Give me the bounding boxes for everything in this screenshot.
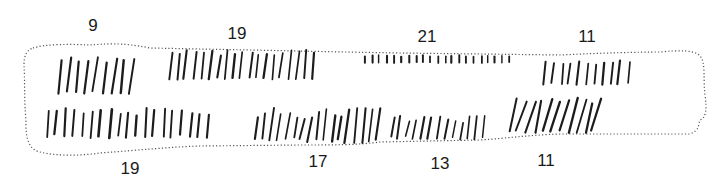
notch-mark xyxy=(256,55,258,78)
notch-mark xyxy=(109,109,112,138)
notch-mark xyxy=(420,117,424,139)
notch-mark xyxy=(54,111,57,134)
notch-mark xyxy=(277,114,281,140)
notch-mark xyxy=(121,60,124,93)
notch-mark xyxy=(76,62,79,92)
bottom-label-4: 11 xyxy=(537,152,555,169)
notch-mark xyxy=(47,111,49,137)
notch-mark xyxy=(264,54,267,78)
notch-mark xyxy=(300,119,305,139)
notch-mark xyxy=(207,115,209,138)
notch-mark xyxy=(202,53,204,79)
notch-mark xyxy=(362,108,365,143)
notch-mark xyxy=(467,116,469,138)
notch-mark xyxy=(82,113,83,136)
top-label-1: 9 xyxy=(88,17,97,34)
notch-mark xyxy=(98,110,100,136)
notch-mark xyxy=(617,61,620,84)
notch-mark xyxy=(323,109,326,140)
notch-mark xyxy=(445,120,449,139)
notch-mark xyxy=(483,116,485,138)
notch-mark xyxy=(64,108,65,136)
notch-mark xyxy=(304,50,306,78)
notch-mark xyxy=(332,116,335,142)
notch-mark xyxy=(296,51,300,79)
notch-mark xyxy=(560,100,570,130)
notch-mark xyxy=(586,64,588,85)
notch-mark xyxy=(190,113,192,136)
notch-mark xyxy=(164,109,165,137)
notch-mark xyxy=(118,114,121,136)
notch-mark xyxy=(67,58,71,92)
notch-mark xyxy=(569,98,578,133)
tally-bone-diagram: 9 19 21 11 19 17 13 11 xyxy=(0,0,727,185)
notch-mark xyxy=(152,110,154,136)
top-label-2: 19 xyxy=(228,25,247,42)
notch-mark xyxy=(183,50,186,79)
notch-group-top-21 xyxy=(365,55,509,63)
notch-mark xyxy=(126,113,128,138)
notch-mark xyxy=(217,56,221,78)
notch-mark xyxy=(225,50,228,79)
notch-mark xyxy=(338,117,342,140)
notch-mark xyxy=(543,62,545,85)
notch-mark xyxy=(577,62,580,85)
notch-mark xyxy=(209,51,213,79)
notch-mark xyxy=(550,102,560,131)
notch-mark xyxy=(595,65,597,84)
notch-mark xyxy=(233,54,236,78)
notch-group-top-9 xyxy=(58,57,134,94)
notch-mark xyxy=(197,114,199,137)
notch-mark xyxy=(178,54,180,80)
notch-mark xyxy=(562,64,563,84)
notch-mark xyxy=(286,113,291,139)
bottom-label-1: 19 xyxy=(121,160,140,177)
notch-mark xyxy=(92,57,98,91)
notch-mark xyxy=(269,108,274,140)
notch-mark xyxy=(437,117,440,139)
notch-mark xyxy=(391,117,394,136)
notch-mark xyxy=(602,63,604,85)
notch-mark xyxy=(72,110,74,136)
notch-mark xyxy=(58,60,61,93)
notch-mark xyxy=(279,53,283,77)
bottom-label-2: 17 xyxy=(309,153,328,170)
top-label-4: 11 xyxy=(578,28,596,45)
notch-mark xyxy=(112,59,118,94)
notch-group-bottom-19 xyxy=(47,108,209,138)
notch-mark xyxy=(103,63,107,94)
notch-mark xyxy=(129,59,134,94)
notch-mark xyxy=(255,117,258,138)
notch-marks xyxy=(47,50,630,143)
notch-mark xyxy=(272,55,274,80)
notch-mark xyxy=(289,50,292,79)
notch-mark xyxy=(525,102,536,133)
notch-mark xyxy=(250,53,253,78)
notch-mark xyxy=(294,118,297,138)
notch-mark xyxy=(239,52,242,78)
notch-mark xyxy=(376,108,381,139)
notch-mark xyxy=(312,53,314,79)
notch-mark xyxy=(510,99,517,132)
bottom-label-3: 13 xyxy=(431,155,450,172)
notch-mark xyxy=(170,111,172,138)
notch-mark xyxy=(516,102,527,131)
notch-mark xyxy=(474,116,477,139)
notch-mark xyxy=(145,108,146,137)
notch-mark xyxy=(551,63,554,83)
notch-group-bottom-13 xyxy=(391,116,484,140)
notch-mark xyxy=(577,100,587,133)
notch-mark xyxy=(354,108,357,143)
notch-group-top-11 xyxy=(543,61,630,85)
notch-mark xyxy=(427,118,431,139)
notch-group-bottom-17 xyxy=(255,108,380,143)
notch-mark xyxy=(460,123,463,140)
top-label-3: 21 xyxy=(418,28,437,45)
notch-group-bottom-11 xyxy=(510,98,601,133)
notch-mark xyxy=(628,62,630,83)
bone-drawing xyxy=(0,0,727,185)
notch-mark xyxy=(406,121,410,136)
notch-mark xyxy=(453,121,456,137)
notch-mark xyxy=(307,118,312,143)
notch-mark xyxy=(91,112,93,138)
